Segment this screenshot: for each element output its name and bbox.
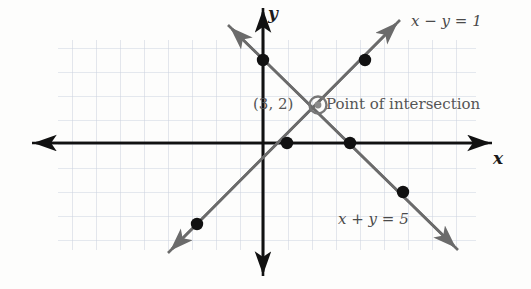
intersection-center-dot bbox=[315, 102, 322, 109]
data-point-dot bbox=[281, 137, 293, 149]
data-point-dot bbox=[359, 54, 371, 66]
x-axis-label: x bbox=[493, 148, 503, 168]
graph-figure bbox=[0, 0, 531, 289]
intersection-annotation-label: Point of intersection bbox=[326, 95, 480, 113]
y-axis-label: y bbox=[268, 3, 278, 23]
data-point-dot bbox=[397, 186, 409, 198]
intersection-coordinate-label: (3, 2) bbox=[253, 95, 293, 113]
equation-label-x-plus-y: x + y = 5 bbox=[338, 210, 409, 228]
data-point-dot bbox=[257, 54, 269, 66]
data-point-dot bbox=[344, 137, 356, 149]
equation-label-x-minus-y: x − y = 1 bbox=[411, 12, 482, 30]
grid-paper bbox=[58, 40, 476, 250]
data-point-dot bbox=[191, 218, 203, 230]
